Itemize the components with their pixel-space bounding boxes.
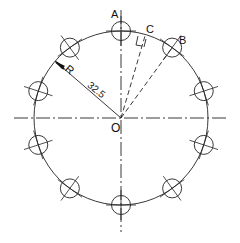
label-b: B — [179, 35, 186, 46]
right-angle-mark — [136, 36, 142, 46]
hole-tangent-centerline — [199, 77, 208, 106]
label-o: O — [111, 122, 120, 134]
label-a: A — [111, 9, 118, 20]
hole-tangent-centerline — [199, 131, 208, 160]
hole-tangent-centerline — [34, 131, 43, 160]
right-angle-mark-2 — [144, 39, 146, 47]
hole-tangent-centerline — [58, 180, 82, 198]
hole-tangent-centerline — [58, 39, 82, 57]
hole-tangent-centerline — [34, 77, 43, 106]
construction-line-oc — [121, 36, 145, 118]
hole-tangent-centerline — [160, 180, 184, 198]
label-c: C — [146, 24, 154, 35]
